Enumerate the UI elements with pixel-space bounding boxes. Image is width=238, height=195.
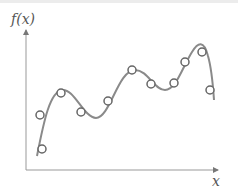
x-axis-label: x bbox=[212, 173, 220, 189]
fit-diagram: f(x) x bbox=[0, 0, 238, 195]
data-point-marker bbox=[198, 48, 206, 56]
data-point-marker bbox=[147, 80, 155, 88]
data-points bbox=[36, 48, 214, 153]
data-point-marker bbox=[38, 145, 46, 153]
y-axis-label: f(x) bbox=[10, 11, 35, 27]
data-point-marker bbox=[170, 79, 178, 87]
data-point-marker bbox=[77, 108, 85, 116]
data-point-marker bbox=[128, 66, 136, 74]
data-point-marker bbox=[181, 58, 189, 66]
data-point-marker bbox=[36, 111, 44, 119]
data-point-marker bbox=[104, 97, 112, 105]
data-point-marker bbox=[57, 89, 65, 97]
data-point-marker bbox=[206, 86, 214, 94]
